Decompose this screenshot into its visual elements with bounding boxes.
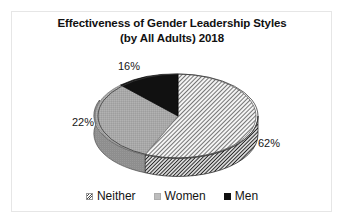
gray-swatch-icon — [154, 193, 161, 200]
hatch-swatch-icon — [86, 193, 93, 200]
pie-chart-graphic — [88, 62, 268, 184]
data-label-women: 22% — [72, 116, 94, 128]
chart-legend: Neither Women Men — [0, 190, 344, 202]
black-swatch-icon — [224, 193, 231, 200]
legend-item-women[interactable]: Women — [154, 190, 206, 202]
data-label-men: 16% — [118, 60, 140, 72]
legend-item-men[interactable]: Men — [224, 190, 258, 202]
legend-label-neither: Neither — [97, 190, 136, 202]
legend-item-neither[interactable]: Neither — [86, 190, 136, 202]
data-label-neither: 62% — [258, 137, 280, 149]
legend-label-women: Women — [165, 190, 206, 202]
chart-screenshot: Effectiveness of Gender Leadership Style… — [0, 0, 344, 224]
legend-label-men: Men — [235, 190, 258, 202]
